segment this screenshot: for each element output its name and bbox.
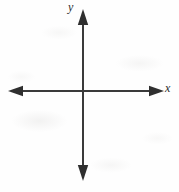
y-axis-up-arrowhead-icon (78, 9, 88, 25)
x-axis-right-arrowhead-icon (149, 86, 164, 96)
x-axis-left-arrowhead-icon (8, 86, 23, 96)
y-axis-down-arrowhead-icon (78, 165, 88, 181)
y-axis-label: y (68, 1, 73, 13)
coordinate-axes-figure: y x (0, 0, 179, 192)
axes-drawing (0, 0, 179, 192)
x-axis-label: x (165, 82, 170, 94)
